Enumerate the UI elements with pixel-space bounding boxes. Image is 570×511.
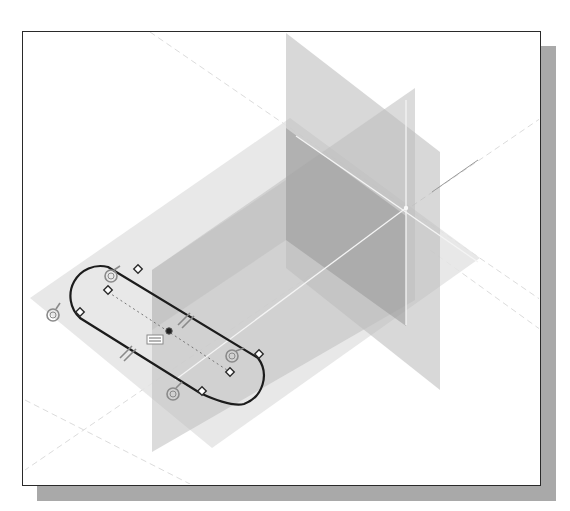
slot-center-point[interactable] — [166, 328, 172, 334]
origin-point[interactable] — [404, 206, 408, 210]
cad-scene — [0, 0, 570, 511]
equal-constraint-icon[interactable] — [147, 335, 163, 344]
